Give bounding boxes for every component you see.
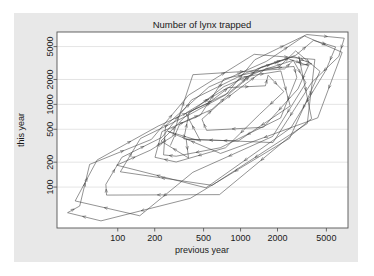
x-axis-title: previous year [175,245,229,255]
figure-root: 100200500100020005000 100200500100020005… [0,0,374,276]
lynx-lag-plot: 100200500100020005000 100200500100020005… [0,0,374,276]
y-tick-labels: 100200500100020005000 [45,37,55,195]
y-tick-label: 2000 [45,69,55,89]
y-tick-label: 1000 [45,94,55,114]
y-tick-label: 5000 [45,37,55,57]
y-tick-label: 200 [45,155,55,170]
x-tick-label: 1000 [231,233,251,243]
x-tick-label: 200 [147,233,162,243]
x-tick-labels: 100200500100020005000 [110,233,336,243]
x-tick-label: 500 [196,233,211,243]
y-tick-label: 500 [45,122,55,137]
x-tick-label: 100 [110,233,125,243]
plot-area-background [57,32,348,228]
y-axis-title: this year [16,113,26,147]
x-tick-label: 5000 [316,233,336,243]
x-tick-label: 2000 [267,233,287,243]
chart-title: Number of lynx trapped [153,19,252,30]
y-tick-label: 100 [45,180,55,195]
